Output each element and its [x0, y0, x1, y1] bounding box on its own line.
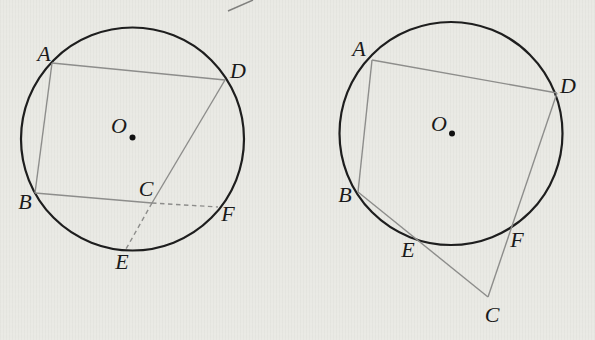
dashed-segment-CE — [126, 203, 152, 249]
center-label-O: O — [111, 113, 127, 138]
segment-DC — [488, 93, 557, 297]
point-label-A: A — [35, 41, 51, 66]
point-label-A: A — [350, 36, 366, 61]
geometry-figure: ABCDEFOABCDEFO — [0, 0, 595, 340]
dashed-segment-CF — [152, 203, 218, 207]
point-label-D: D — [229, 58, 246, 83]
point-label-F: F — [509, 227, 524, 252]
point-label-D: D — [559, 73, 576, 98]
center-label-O: O — [431, 111, 447, 136]
figure-canvas: ABCDEFOABCDEFO — [0, 0, 595, 340]
point-label-F: F — [220, 201, 235, 226]
point-label-B: B — [18, 189, 31, 214]
left-figure: ABCDEFO — [18, 28, 246, 275]
center-dot — [130, 135, 136, 141]
stray-pencil-mark — [228, 0, 253, 11]
segment-DC — [152, 80, 225, 203]
segment-BC — [35, 193, 152, 203]
point-label-C: C — [485, 302, 500, 327]
point-label-E: E — [400, 237, 415, 262]
center-dot — [449, 131, 455, 137]
point-label-E: E — [114, 249, 129, 274]
segment-AB — [358, 60, 372, 192]
right-figure: ABCDEFO — [338, 22, 576, 327]
segment-AD — [52, 63, 225, 80]
point-label-B: B — [338, 182, 351, 207]
point-label-C: C — [139, 176, 154, 201]
segment-AD — [372, 60, 557, 93]
